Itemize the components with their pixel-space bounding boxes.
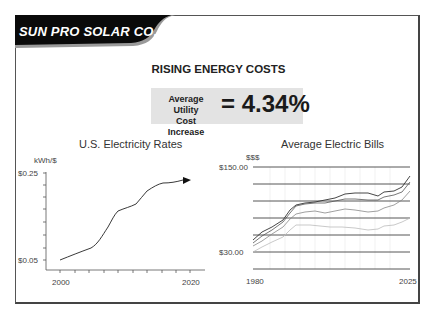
right-chart bbox=[0, 0, 437, 321]
